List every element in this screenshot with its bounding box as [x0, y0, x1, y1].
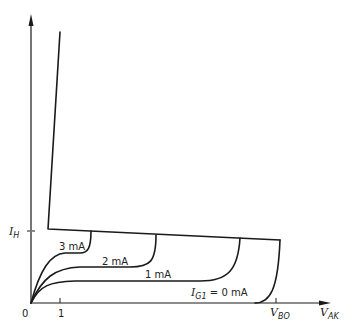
- origin-label: 0: [22, 308, 28, 319]
- y-axis-arrow-icon: [29, 14, 34, 26]
- curve-label-3ma: 3 mA: [59, 241, 85, 252]
- on-state-curve: [48, 32, 280, 240]
- scr-characteristic-diagram: IH 0 1 VBO VAK 3 mA 2 mA 1 mA IG1 = 0 mA: [0, 0, 353, 331]
- curve-label-1ma: 1 mA: [145, 269, 171, 280]
- x-axis-label-vak: VAK: [320, 306, 339, 321]
- curve-label-2ma: 2 mA: [102, 256, 128, 267]
- x-axis-arrow-icon: [319, 301, 331, 306]
- curve-2ma: [31, 235, 156, 303]
- y-axis-label-ih: IH: [8, 225, 19, 240]
- x-tick-1-label: 1: [58, 308, 64, 319]
- curve-ig-0ma: [255, 240, 280, 303]
- vbo-label: VBO: [270, 306, 290, 321]
- curve-label-ig0: IG1 = 0 mA: [190, 286, 248, 301]
